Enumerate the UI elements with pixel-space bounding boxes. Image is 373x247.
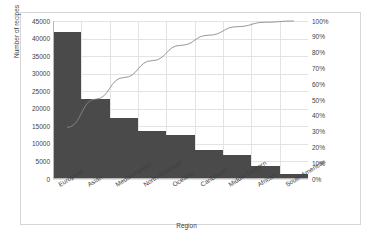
y2-axis-tick-label: 90% <box>312 33 325 40</box>
y-axis-tick-label: 45000 <box>32 18 50 25</box>
y-axis-right-ticks: 0%10%20%30%40%50%60%70%80%90%100% <box>312 0 340 158</box>
y-axis-title: Number of recipes <box>13 5 20 58</box>
plot-area <box>53 21 308 179</box>
y-axis-left-ticks: 0500010000150002000025000300003500040000… <box>20 0 50 158</box>
y2-axis-tick-label: 50% <box>312 97 325 104</box>
y-axis-line <box>53 21 54 179</box>
y-axis-tick-label: 15000 <box>32 123 50 130</box>
y2-axis-tick-label: 30% <box>312 128 325 135</box>
y2-axis-tick-label: 10% <box>312 160 325 167</box>
y-axis-tick-label: 0 <box>46 176 50 183</box>
y2-axis-tick-label: 80% <box>312 49 325 56</box>
y2-axis-tick-label: 20% <box>312 144 325 151</box>
y2-axis-tick-label: 100% <box>312 18 329 25</box>
y2-axis-tick-label: 70% <box>312 65 325 72</box>
x-axis-title: Region <box>0 222 373 229</box>
y2-axis-tick-label: 40% <box>312 112 325 119</box>
y-axis-tick-label: 5000 <box>36 158 50 165</box>
y-axis-tick-label: 35000 <box>32 53 50 60</box>
y-axis-tick-label: 40000 <box>32 35 50 42</box>
y-axis-tick-label: 20000 <box>32 105 50 112</box>
x-axis-line <box>53 178 308 179</box>
pareto-chart: 0500010000150002000025000300003500040000… <box>0 0 373 247</box>
y-axis-tick-label: 30000 <box>32 70 50 77</box>
cumulative-line-path <box>67 21 294 127</box>
gridline-horizontal <box>53 179 308 180</box>
y-axis-tick-label: 25000 <box>32 88 50 95</box>
y-axis-tick-label: 10000 <box>32 140 50 147</box>
cumulative-line <box>53 21 308 179</box>
y2-axis-tick-label: 60% <box>312 81 325 88</box>
y2-axis-tick-label: 0% <box>312 176 321 183</box>
